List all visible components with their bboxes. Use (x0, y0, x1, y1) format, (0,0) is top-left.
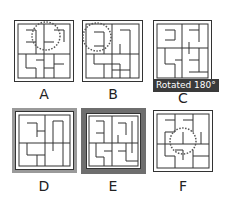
option-d-label: D (14, 178, 74, 194)
dotted-circle-icon (83, 23, 111, 51)
maze-diagram-f (153, 110, 213, 172)
option-a-panel[interactable] (14, 20, 74, 82)
maze-diagram-e (86, 113, 141, 169)
option-c-label: C (153, 90, 213, 106)
option-f-panel[interactable] (153, 110, 213, 172)
maze-diagram-a (14, 20, 74, 82)
option-b-label: B (83, 86, 143, 102)
option-c-panel[interactable] (153, 20, 212, 82)
option-b-panel[interactable] (82, 20, 143, 82)
maze-diagram-c (153, 20, 212, 82)
option-d-panel[interactable] (12, 108, 77, 173)
maze-diagram-b (82, 20, 143, 82)
option-e-panel[interactable] (81, 108, 146, 174)
option-f-label: F (153, 178, 213, 194)
option-e-label: E (83, 178, 143, 194)
option-a-label: A (14, 86, 74, 102)
maze-diagram-d (15, 111, 74, 170)
